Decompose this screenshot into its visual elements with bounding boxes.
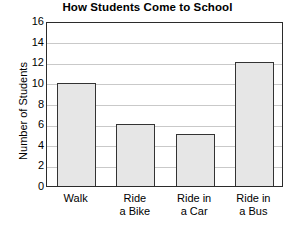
x-axis-tick-label-line: Ride in	[165, 192, 224, 205]
x-axis-tick-label-line: Ride	[105, 192, 164, 205]
chart-title: How Students Come to School	[0, 1, 295, 13]
bar	[116, 124, 155, 186]
y-axis-tick-label: 14	[4, 37, 44, 48]
y-axis-tick-label: 4	[4, 140, 44, 151]
x-axis-tick-label-line: Ride in	[224, 192, 283, 205]
x-axis-tick-label: Ride ina Bus	[224, 192, 283, 217]
x-axis-tick-label-line: a Bus	[224, 205, 283, 218]
y-axis-tick-label: 0	[4, 181, 44, 192]
y-axis-tick-label: 6	[4, 119, 44, 130]
bar	[235, 62, 274, 186]
x-axis-tick-label-line: Walk	[46, 192, 105, 205]
bar	[176, 134, 215, 186]
x-axis-tick-label: Walk	[46, 192, 105, 205]
y-axis-tick-label: 2	[4, 160, 44, 171]
x-axis-tick-label-line: a Bike	[105, 205, 164, 218]
bar	[57, 83, 96, 186]
y-axis-tick-label: 16	[4, 16, 44, 27]
x-axis-tick-label: Ride ina Car	[165, 192, 224, 217]
gridline	[47, 43, 282, 44]
x-axis-tick-label-line: a Car	[165, 205, 224, 218]
plot-area	[46, 22, 283, 187]
y-axis-tick-label: 12	[4, 57, 44, 68]
x-axis-tick-label: Ridea Bike	[105, 192, 164, 217]
y-axis-tick-label: 10	[4, 78, 44, 89]
bar-chart-screenshot: How Students Come to School Number of St…	[0, 0, 295, 232]
y-axis-tick-label: 8	[4, 99, 44, 110]
